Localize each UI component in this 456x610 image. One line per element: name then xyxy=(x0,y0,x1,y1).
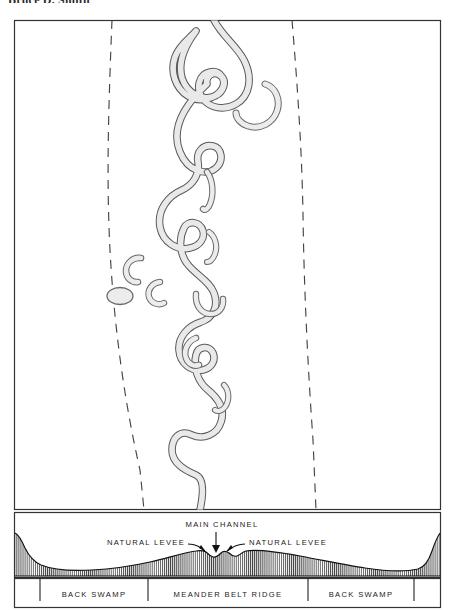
annotation-natural-levee-right: NATURAL LEVEE xyxy=(249,538,327,547)
zone-label-meander-belt-ridge: MEANDER BELT RIDGE xyxy=(174,590,283,599)
zone-label-back-swamp-left: BACK SWAMP xyxy=(62,590,127,599)
figure-canvas: MAIN CHANNEL NATURAL LEVEE NATURAL LEVEE… xyxy=(0,0,456,610)
cross-section-panel: MAIN CHANNEL NATURAL LEVEE NATURAL LEVEE xyxy=(15,513,441,578)
zone-label-back-swamp-right: BACK SWAMP xyxy=(329,590,394,599)
annotation-natural-levee-left: NATURAL LEVEE xyxy=(107,538,185,547)
zone-label-strip: BACK SWAMP MEANDER BELT RIDGE BACK SWAMP xyxy=(15,578,441,608)
oxbow-lake xyxy=(107,288,133,305)
figure-meander-belt: MAIN CHANNEL NATURAL LEVEE NATURAL LEVEE… xyxy=(0,0,456,610)
annotation-main-channel: MAIN CHANNEL xyxy=(186,520,259,529)
map-frame xyxy=(15,21,441,510)
map-panel xyxy=(15,20,441,510)
